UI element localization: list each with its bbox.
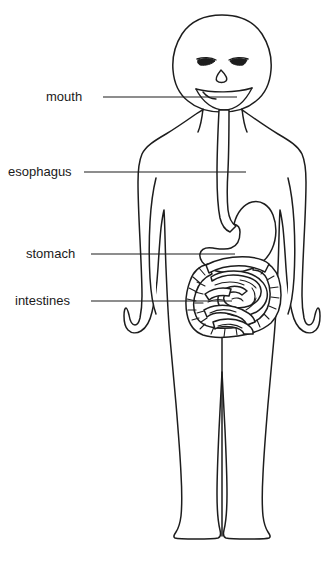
digestive-system-diagram: mouth esophagus stomach intestines [0,0,323,564]
label-stomach: stomach [26,247,75,260]
label-mouth: mouth [46,90,82,103]
body-figure-illustration [0,0,323,564]
label-intestines: intestines [15,294,70,307]
label-esophagus: esophagus [8,165,72,178]
